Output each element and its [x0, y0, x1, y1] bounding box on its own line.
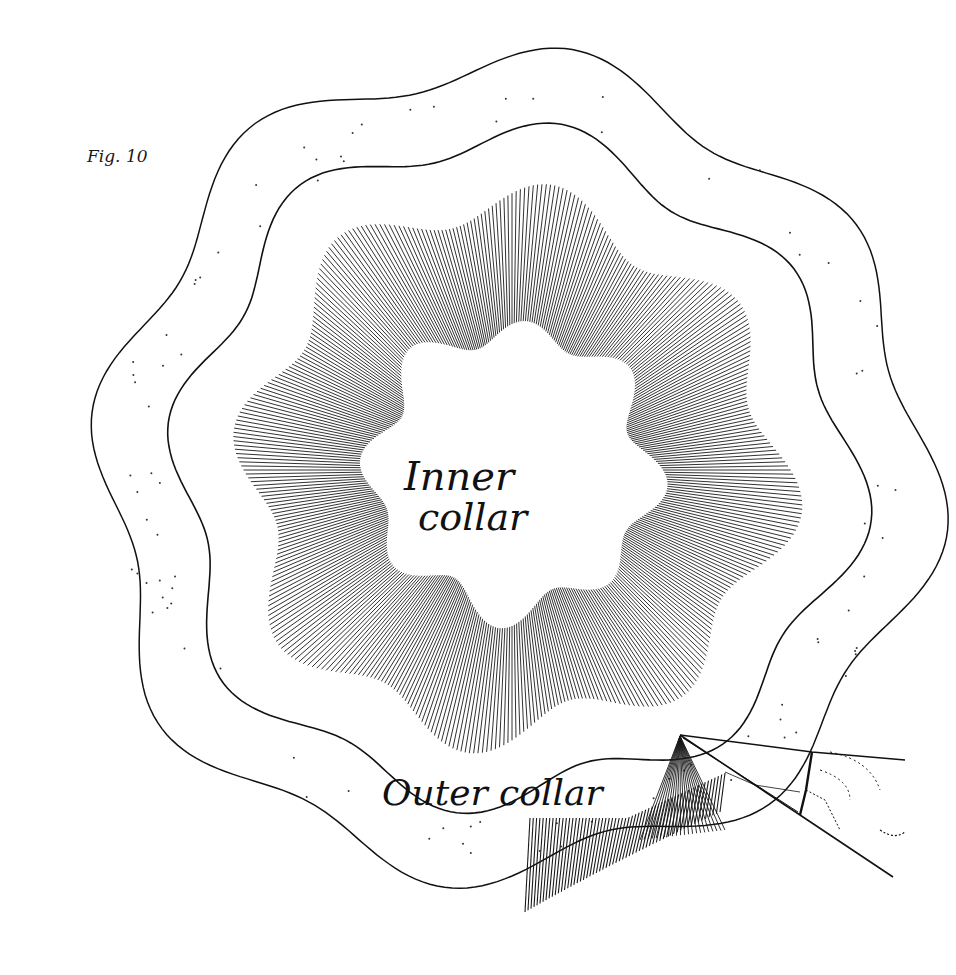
inner-collar-label-line1: Inner — [403, 453, 517, 499]
inner-collar-label-line2: collar — [418, 495, 530, 539]
cut-wedge-hatching — [525, 736, 725, 912]
outer-collar-outline — [168, 123, 872, 813]
outer-boundary-outline — [91, 48, 948, 888]
collar-diagram: Inner collar Outer collar — [0, 0, 956, 975]
outer-collar-label: Outer collar — [382, 772, 604, 813]
inner-collar-hatching — [233, 184, 802, 753]
